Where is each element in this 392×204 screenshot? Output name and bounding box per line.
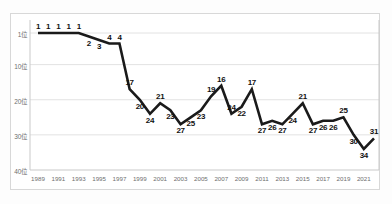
data-point-label: 21 (295, 92, 311, 101)
y-tick-label: 30位 (2, 131, 28, 141)
data-point-label: 34 (356, 151, 372, 160)
data-point-label: 24 (142, 116, 158, 125)
data-point-label: 16 (213, 75, 229, 84)
data-point-label: 25 (335, 106, 351, 115)
data-point-label: 19 (203, 85, 219, 94)
data-point-label: 31 (366, 127, 382, 136)
data-point-label: 4 (111, 33, 127, 42)
data-point-label: 30 (346, 137, 362, 146)
gridlines (30, 33, 379, 170)
data-point-label: 24 (285, 116, 301, 125)
y-tick-label: 1位 (2, 29, 28, 39)
data-point-label: 17 (244, 78, 260, 87)
y-tick-label: 40位 (2, 166, 28, 176)
y-tick-label: 10位 (2, 61, 28, 71)
data-point-label: 1 (71, 22, 87, 31)
data-point-label: 3 (91, 42, 107, 51)
data-point-label: 22 (234, 109, 250, 118)
data-point-label: 20 (132, 102, 148, 111)
data-point-label: 23 (193, 112, 209, 121)
data-point-label: 26 (325, 123, 341, 132)
data-point-label: 23 (162, 112, 178, 121)
x-tick-label: 2021 (352, 175, 376, 182)
rank-line-chart: 1位10位20位30位40位 1989199119931995199719992… (0, 0, 392, 204)
data-point-label: 17 (122, 78, 138, 87)
data-point-label: 27 (274, 126, 290, 135)
y-tick-label: 20位 (2, 96, 28, 106)
data-point-label: 21 (152, 92, 168, 101)
